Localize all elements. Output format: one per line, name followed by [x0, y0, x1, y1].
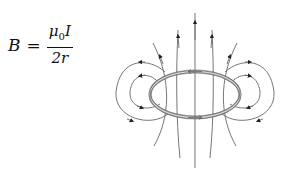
field-line-inner-right: [210, 30, 213, 158]
field-loop-right-outer: [222, 63, 274, 121]
field-loop-left-inner: [130, 75, 160, 108]
magnetic-field-diagram: [0, 0, 288, 175]
field-line-inner-left: [177, 30, 180, 158]
field-loop-right-inner: [230, 75, 260, 108]
field-loop-left-outer: [116, 63, 168, 121]
field-line-mid-left: [153, 43, 167, 146]
field-line-mid-right: [223, 43, 237, 146]
